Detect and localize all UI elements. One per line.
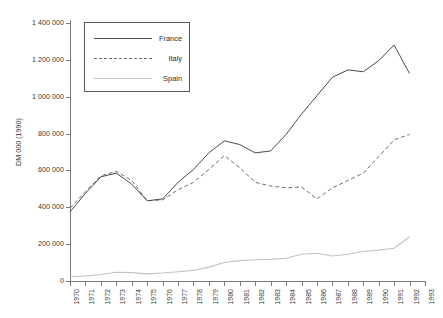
y-axis-tick [66,60,71,61]
x-axis-tick-label: 1989 [366,289,373,305]
legend-swatch-italy [94,58,152,59]
x-axis-tick [147,281,148,286]
x-axis-tick-label: 1970 [73,289,80,305]
x-axis-tick [178,281,179,286]
y-axis-tick-label: 200 000 [4,239,64,248]
x-axis-tick [116,281,117,286]
x-axis-tick-label: 1979 [212,289,219,305]
x-axis-tick [240,281,241,286]
legend-item-spain: Spain [85,73,189,85]
x-axis-tick [317,281,318,286]
y-axis-tick [66,281,71,282]
x-axis-tick [224,281,225,286]
x-axis-line [70,281,426,282]
x-axis-tick [348,281,349,286]
y-axis-tick [66,23,71,24]
x-axis-tick-label: 1985 [305,289,312,305]
x-axis-tick-label: 1991 [397,289,404,305]
x-axis-tick [163,281,164,286]
x-axis-tick [209,281,210,286]
y-axis-caption: DM 000 (1990) [14,118,23,166]
x-axis-tick-label: 1972 [104,289,111,305]
x-axis-tick [193,281,194,286]
x-axis-tick [332,281,333,286]
legend-swatch-spain [94,78,152,79]
x-axis-tick-label: 1975 [150,289,157,305]
x-axis-tick [101,281,102,286]
x-axis-tick-label: 1986 [320,289,327,305]
x-axis-tick-label: 1977 [181,289,188,305]
x-axis-tick-label: 1978 [196,289,203,305]
x-axis-tick-label: 1971 [88,289,95,305]
legend-item-france: France [85,33,189,45]
series-line-spain [70,237,410,277]
y-axis-tick [66,207,71,208]
chart-container: THE ITALIAN ART MARKET 0200 000400 00060… [0,0,443,318]
x-axis-tick-label: 1981 [243,289,250,305]
x-axis-tick [271,281,272,286]
x-axis-tick-label: 1992 [413,289,420,305]
x-axis-tick-label: 1974 [135,289,142,305]
legend-item-italy: Italy [85,53,189,65]
y-axis-tick-label: 1 400 000 [4,18,64,27]
y-axis-tick-label: 600 000 [4,165,64,174]
x-axis-tick [363,281,364,286]
x-axis-tick-label: 1976 [166,289,173,305]
x-axis-tick [425,281,426,286]
x-axis-tick-label: 1988 [351,289,358,305]
x-axis-tick-label: 1990 [382,289,389,305]
legend-label-spain: Spain [163,73,182,85]
x-axis-tick-label: 1987 [335,289,342,305]
y-axis-tick [66,134,71,135]
x-axis-tick-label: 1982 [258,289,265,305]
y-axis-tick-label: 1 000 000 [4,92,64,101]
legend-label-italy: Italy [168,53,182,65]
x-axis-tick [85,281,86,286]
chart-legend: France Italy Spain [84,22,190,92]
x-axis-tick-label: 1983 [274,289,281,305]
x-axis-tick-label: 1984 [289,289,296,305]
x-axis-tick-label: 1980 [227,289,234,305]
y-axis-tick [66,97,71,98]
x-axis-tick [379,281,380,286]
y-axis-tick [66,244,71,245]
x-axis-tick [394,281,395,286]
chart-title: THE ITALIAN ART MARKET [0,0,443,2]
x-axis-tick-label: 1993 [428,289,435,305]
series-line-italy [70,134,410,208]
x-axis-tick [302,281,303,286]
x-axis-tick [410,281,411,286]
x-axis-tick-label: 1973 [119,289,126,305]
y-axis-tick-label: 1 200 000 [4,55,64,64]
x-axis-tick [255,281,256,286]
legend-label-france: France [159,33,182,45]
x-axis-tick [132,281,133,286]
y-axis-tick-label: 400 000 [4,202,64,211]
y-axis-tick [66,170,71,171]
legend-swatch-france [94,38,152,39]
y-axis-labels: 0200 000400 000600 000800 0001 000 0001 … [0,0,64,318]
y-axis-tick-label: 0 [4,276,64,285]
y-axis-tick-label: 800 000 [4,129,64,138]
x-axis-tick [286,281,287,286]
